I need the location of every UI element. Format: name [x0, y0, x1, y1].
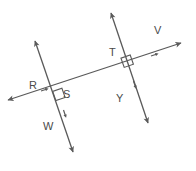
geometry-diagram: R S W T V Y [0, 0, 196, 171]
tick-mark-near-W [64, 110, 66, 116]
transversal-line-RV [8, 43, 181, 100]
point-label-v: V [154, 25, 161, 36]
point-label-s: S [63, 89, 70, 100]
line-T-Y-segment [111, 13, 148, 123]
point-label-r: R [29, 80, 37, 91]
point-label-t: T [109, 47, 116, 58]
tick-mark-near-V [151, 54, 157, 56]
transversal-segment [8, 43, 181, 100]
point-label-y: Y [116, 93, 123, 104]
line-through-T-and-Y [111, 13, 148, 123]
point-label-w: W [43, 121, 53, 132]
